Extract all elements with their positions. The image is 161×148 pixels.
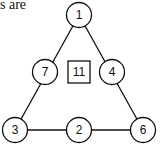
node-right-mid: 4 bbox=[100, 60, 125, 85]
node-label: 1 bbox=[76, 8, 83, 22]
center-value: 11 bbox=[73, 65, 86, 79]
node-bottom-mid: 2 bbox=[67, 118, 92, 143]
node-label: 2 bbox=[76, 123, 83, 137]
node-left-mid: 7 bbox=[33, 60, 58, 85]
node-label: 6 bbox=[140, 123, 147, 137]
node-bottom-left: 3 bbox=[3, 118, 28, 143]
node-bottom-right: 6 bbox=[131, 118, 156, 143]
triangle-diagram: 11 1 7 4 3 2 6 bbox=[0, 0, 161, 148]
node-label: 4 bbox=[109, 65, 116, 79]
node-top: 1 bbox=[67, 3, 92, 28]
node-label: 7 bbox=[42, 65, 49, 79]
node-label: 3 bbox=[12, 123, 19, 137]
